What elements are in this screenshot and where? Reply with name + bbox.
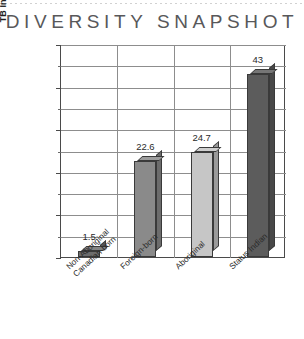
y-tick-minor	[58, 66, 61, 67]
y-tick-minor	[58, 194, 61, 195]
y-tick-major	[56, 173, 61, 174]
y-tick-minor	[58, 152, 61, 153]
bar-side-face	[213, 141, 219, 251]
y-tick-major	[56, 45, 61, 46]
category-separator	[230, 45, 231, 258]
y-tick-major	[56, 130, 61, 131]
bar-value-label: 43	[233, 54, 283, 65]
bar-column: 24.7	[191, 44, 213, 257]
bar-column: 22.6	[134, 44, 156, 257]
y-tick-major	[56, 258, 61, 259]
scan-edge-artifact	[0, 3, 304, 4]
bar-value-label: 22.6	[120, 141, 170, 152]
y-tick-minor	[58, 237, 61, 238]
chart-title: DIVERSITY SNAPSHOT	[0, 11, 304, 33]
bar-value-label: 24.7	[177, 132, 227, 143]
bar-column: 1.5	[78, 44, 100, 257]
bar-column: 43	[247, 44, 269, 257]
y-tick-major	[56, 88, 61, 89]
y-axis-title: TB Incidence per 100 000 People	[0, 0, 8, 46]
plot-area: 01020304050 1.522.624.743	[60, 45, 285, 258]
category-separator	[174, 45, 175, 258]
bar-front-face	[247, 74, 269, 257]
y-tick-minor	[58, 109, 61, 110]
category-separator	[117, 45, 118, 258]
y-tick-major	[56, 215, 61, 216]
bar-side-face	[269, 63, 275, 251]
